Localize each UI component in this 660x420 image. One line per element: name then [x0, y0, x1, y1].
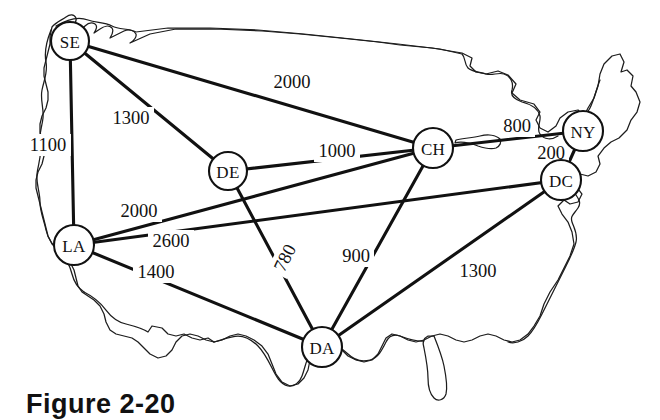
node-DE[interactable]: DE — [209, 152, 247, 190]
edge-label-text: 1400 — [138, 262, 175, 282]
edge-SE-DE — [70, 41, 228, 171]
edge-label-text: 900 — [342, 246, 370, 266]
edge-label-text: 2600 — [153, 231, 190, 251]
edge-label-SE-DE: 1300 — [108, 107, 154, 129]
node-label: DA — [309, 339, 335, 358]
edge-labels-group: 1100 1300 2000 1000 780 800 — [25, 71, 569, 283]
edge-label-DE-DA: 780 — [267, 237, 303, 279]
edge-label-text: 800 — [503, 116, 531, 136]
node-NY[interactable]: NY — [563, 111, 603, 151]
figure-caption: Figure 2-20 — [26, 389, 176, 420]
edge-label-LA-CH: 2000 — [116, 200, 162, 222]
edge-label-CH-NY: 800 — [499, 115, 535, 137]
edge-label-LA-DA: 1400 — [133, 261, 179, 283]
node-label: DE — [216, 163, 239, 182]
node-label: CH — [421, 140, 445, 159]
node-SE[interactable]: SE — [51, 22, 89, 60]
graph-edges-group — [70, 41, 583, 347]
node-label: DC — [549, 172, 573, 191]
edge-label-DA-CH: 900 — [338, 245, 374, 267]
node-label: LA — [62, 237, 86, 256]
node-label: NY — [570, 123, 595, 142]
edge-label-text: 2000 — [121, 201, 158, 221]
node-CH[interactable]: CH — [413, 128, 453, 168]
graph-nodes-group: SE DE CH NY DC LA — [51, 22, 603, 367]
node-DA[interactable]: DA — [302, 327, 342, 367]
edge-label-LA-DC: 2600 — [148, 230, 194, 252]
edge-label-DE-CH: 1000 — [314, 140, 360, 162]
edge-label-text: 1000 — [319, 141, 356, 161]
edge-label-DA-DC: 1300 — [455, 260, 501, 282]
node-DC[interactable]: DC — [541, 160, 581, 200]
edge-label-text: 1300 — [113, 108, 150, 128]
edge-label-SE-LA: 1100 — [25, 134, 71, 156]
node-label: SE — [60, 33, 80, 52]
node-LA[interactable]: LA — [54, 225, 94, 265]
edge-label-text: 1300 — [460, 261, 497, 281]
edge-SE-CH — [70, 41, 433, 148]
florida-detail — [423, 336, 447, 400]
edge-label-SE-CH: 2000 — [269, 71, 315, 93]
edge-label-text: 1100 — [30, 135, 66, 155]
edge-LA-CH — [74, 148, 433, 245]
edge-label-text: 2000 — [274, 72, 311, 92]
